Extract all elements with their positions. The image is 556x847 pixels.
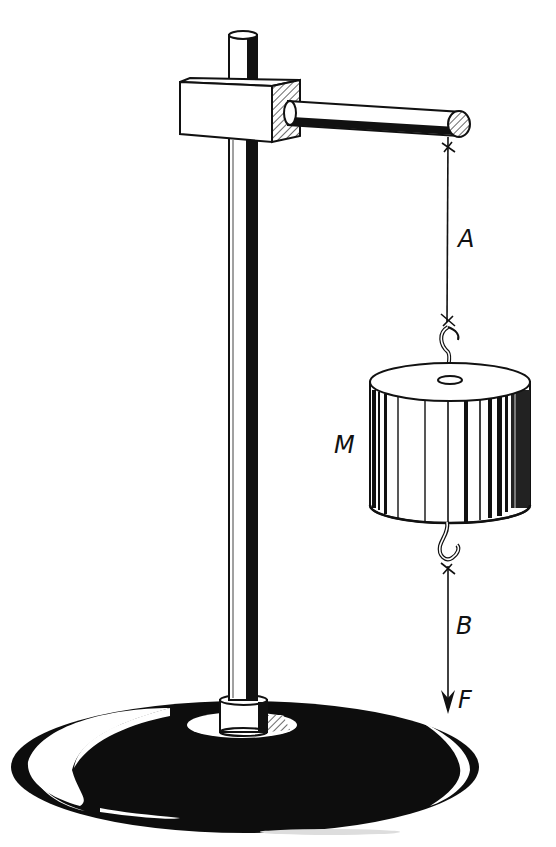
label-F: F (458, 688, 472, 712)
string-A (441, 137, 455, 326)
label-B: B (456, 614, 472, 638)
bottom-hook (440, 522, 459, 559)
base-shadow (260, 829, 400, 835)
hanging-mass-M (370, 363, 530, 523)
horizontal-arm (284, 101, 470, 137)
label-M: M (334, 433, 355, 457)
clamp-block (180, 78, 300, 142)
stand-mass-string-diagram: A M B F (0, 0, 556, 847)
rod-collar (220, 695, 267, 736)
string-B (441, 563, 455, 706)
label-A: A (458, 227, 474, 251)
diagram-illustration (0, 0, 556, 847)
